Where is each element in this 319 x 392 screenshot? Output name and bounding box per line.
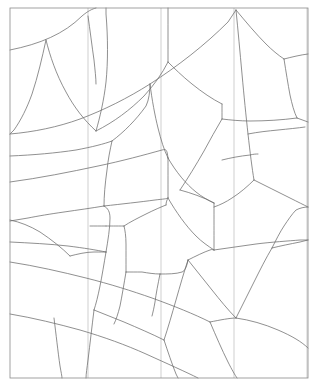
cell-edges-group xyxy=(10,8,308,378)
edge-09 xyxy=(236,10,284,59)
tessellation-figure xyxy=(0,0,319,392)
edge-54 xyxy=(124,205,166,226)
edge-27 xyxy=(168,198,214,250)
edge-13 xyxy=(222,118,297,121)
edge-46 xyxy=(86,310,94,378)
edge-40 xyxy=(210,318,236,322)
edge-53 xyxy=(124,226,126,272)
edge-12 xyxy=(297,118,308,122)
edge-16 xyxy=(180,119,222,190)
edge-62 xyxy=(248,127,305,134)
edge-37 xyxy=(164,260,188,340)
edge-41 xyxy=(236,318,308,348)
edge-22 xyxy=(112,84,150,141)
edge-02 xyxy=(46,40,96,131)
edge-47 xyxy=(210,322,237,378)
edge-49 xyxy=(160,260,188,274)
edge-61 xyxy=(222,154,258,160)
edge-32 xyxy=(10,242,106,252)
edge-39 xyxy=(188,250,214,260)
edge-43 xyxy=(272,240,308,248)
edge-48 xyxy=(10,314,198,378)
edge-17 xyxy=(150,84,168,158)
edge-38 xyxy=(188,260,236,318)
edge-58 xyxy=(10,220,70,256)
edge-19 xyxy=(180,190,214,203)
edge-33 xyxy=(94,252,106,310)
edge-24 xyxy=(10,206,104,221)
edge-35 xyxy=(10,262,210,322)
edge-52 xyxy=(114,272,126,324)
edge-25 xyxy=(104,198,168,206)
edge-34 xyxy=(104,206,110,252)
edge-04 xyxy=(96,8,108,131)
edge-63 xyxy=(88,16,96,84)
edge-60 xyxy=(54,318,62,378)
edge-08 xyxy=(10,10,236,134)
edge-45 xyxy=(164,340,178,378)
edge-31 xyxy=(214,240,308,250)
edge-01 xyxy=(10,8,96,50)
edge-51 xyxy=(126,272,160,274)
edge-30 xyxy=(254,180,308,207)
edge-50 xyxy=(152,274,160,316)
edge-21 xyxy=(10,141,112,156)
edge-42 xyxy=(236,248,272,318)
edge-56 xyxy=(166,198,168,205)
edge-03 xyxy=(10,40,46,134)
edge-36 xyxy=(94,310,164,340)
edge-23 xyxy=(104,141,112,206)
edge-18 xyxy=(168,158,214,203)
edge-07 xyxy=(168,62,222,104)
drawing-canvas xyxy=(0,0,319,392)
edge-11 xyxy=(284,59,297,118)
edge-10 xyxy=(284,54,308,59)
